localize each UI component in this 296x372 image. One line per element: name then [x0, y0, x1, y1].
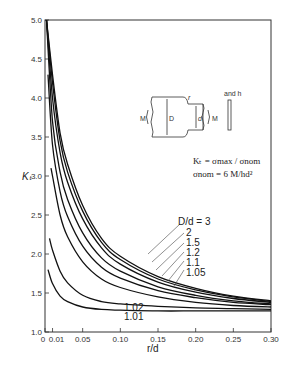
stress-concentration-chart: 1.01.52.02.53.03.54.04.55.0 00.010.050.1… [0, 0, 296, 372]
x-tick-label: 0 [41, 335, 46, 344]
legend-label-1-05: 1.05 [186, 267, 206, 278]
curve-1-1 [48, 75, 271, 305]
y-tick-label: 4.0 [31, 94, 43, 103]
x-tick-label: 0.30 [263, 335, 279, 344]
x-axis-label: r/d [147, 343, 159, 354]
curve-1-01 [48, 270, 271, 311]
x-tick-label: 0.10 [113, 335, 129, 344]
y-tick-label: 3.5 [31, 133, 43, 142]
x-tick-label: 0.01 [49, 335, 65, 344]
y-tick-label: 1.5 [31, 289, 43, 298]
x-tick-label: 0.25 [226, 335, 242, 344]
y-tick-label: 2.5 [31, 211, 43, 220]
thickness-label: and h [224, 90, 242, 97]
y-tick-label: 5.0 [31, 16, 43, 25]
legend-label-3: D/d = 3 [178, 216, 211, 227]
formula-nominal-stress: σnom = 6 M/hd² [193, 169, 253, 179]
radius-label: r [188, 94, 191, 101]
moment-right-label: M [212, 115, 218, 122]
formula-kt: Kₜ = σmax / σnom [193, 156, 260, 166]
y-axis: 1.01.52.02.53.03.54.04.55.0 [31, 16, 49, 337]
dim-D-label: D [169, 115, 174, 122]
legend-label-1-01: 1.01 [124, 311, 144, 322]
y-tick-label: 2.0 [31, 250, 43, 259]
x-tick-label: 0.05 [75, 335, 91, 344]
y-tick-label: 4.5 [31, 55, 43, 64]
y-axis-label: Kₜ [22, 171, 33, 182]
moment-left-label: M [140, 115, 146, 122]
curve-1-05 [51, 168, 271, 307]
x-axis: 00.010.050.100.150.200.250.30 [41, 328, 280, 344]
y-tick-label: 3.0 [31, 172, 43, 181]
specimen-diagram [147, 97, 232, 137]
x-tick-label: 0.20 [188, 335, 204, 344]
